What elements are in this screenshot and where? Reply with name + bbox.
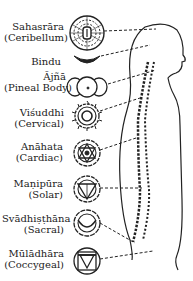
downward-triangle-lotus-icon xyxy=(74,176,100,202)
human-profile-figure xyxy=(120,24,186,270)
two-petal-circle-icon xyxy=(67,77,107,97)
square-triangle-lotus-icon xyxy=(74,248,100,274)
crescent-lotus-icon xyxy=(74,210,100,236)
spine-icon xyxy=(133,62,154,242)
crescent-icon xyxy=(74,56,100,63)
sixteen-petal-circle-icon xyxy=(72,101,102,131)
hexagram-lotus-icon xyxy=(74,140,100,166)
thousand-petal-lotus-icon xyxy=(70,16,104,50)
